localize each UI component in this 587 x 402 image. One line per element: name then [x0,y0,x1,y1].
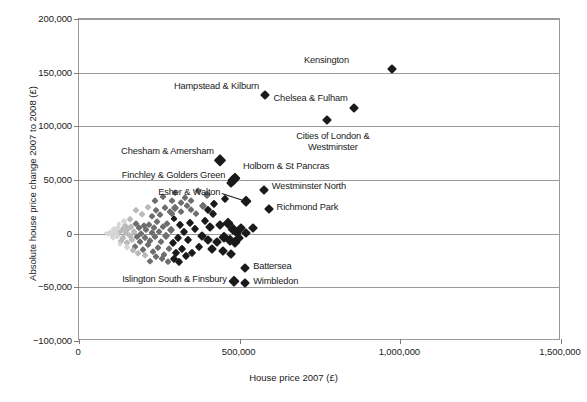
y-axis-tick-label: 150,000 [0,66,72,77]
data-label: Finchley & Golders Green [122,169,225,180]
gridline [79,73,559,74]
data-point [184,236,193,245]
data-label: Wimbledon [253,275,298,286]
y-axis-tick-label: 0 [0,227,72,238]
data-label: Chelsea & Fulham [274,93,348,104]
data-point [138,211,145,218]
data-point [210,199,219,208]
data-point [259,185,269,195]
data-point [151,198,159,206]
x-axis-tick-label: 500,000 [222,346,256,357]
data-point [192,211,200,219]
x-axis-tick-labels: 0500,0001,000,0001,500,000 [78,340,560,360]
data-label: Hampstead & Kilburn [174,80,259,91]
gridline [79,19,559,20]
data-label: Esher & Walton [158,186,220,197]
data-point [190,225,199,234]
data-point [349,103,359,113]
data-point [147,257,154,264]
y-axis-tick [74,73,79,74]
x-axis-tick-label: 1,500,000 [539,346,580,357]
y-axis-tick [74,126,79,127]
plot-area: KensingtonHampstead & KilburnChelsea & F… [78,18,560,340]
y-axis-tick [74,287,79,288]
gridline [79,126,559,127]
y-axis-tick-label: 50,000 [0,174,72,185]
data-point [214,154,226,166]
data-point [228,275,239,286]
data-point [142,252,149,259]
y-axis-tick-labels: −100,000−50,000050,000100,000150,000200,… [0,18,72,340]
scatter-chart: Absolute house price change 2007 to 2008… [0,0,587,402]
data-point [145,204,152,211]
data-label: Cities of London & Westminster [283,131,383,153]
data-label: Holborn & St Pancras [243,161,329,172]
data-point [170,215,178,223]
data-point [264,204,274,214]
data-label: Richmond Park [277,201,339,212]
data-point [205,222,215,232]
y-axis-tick-label: −100,000 [0,335,72,346]
y-axis-tick [74,234,79,235]
data-label: Chesham & Amersham [121,146,214,157]
gridline [79,287,559,288]
data-point [132,207,139,214]
data-point [127,215,134,222]
data-point [322,115,332,125]
x-axis-tick [561,339,562,344]
data-point [240,196,251,207]
data-label: Kensington [304,54,349,65]
y-axis-tick [74,19,79,20]
x-axis-tick-label: 0 [75,346,80,357]
data-label: Battersea [253,260,291,271]
x-axis-tick-label: 1,000,000 [379,346,420,357]
y-axis-tick-label: 100,000 [0,120,72,131]
data-label: Islington South & Finsbury [122,273,227,284]
data-point [194,242,203,251]
y-axis-tick-label: 200,000 [0,13,72,24]
y-axis-tick-label: −50,000 [0,281,72,292]
data-point [260,90,270,100]
x-axis-title: House price 2007 (£) [0,372,587,383]
data-point [240,263,250,273]
data-point [177,208,185,216]
data-point [117,242,122,247]
y-axis-tick [74,180,79,181]
data-label: Westminster North [272,181,346,192]
